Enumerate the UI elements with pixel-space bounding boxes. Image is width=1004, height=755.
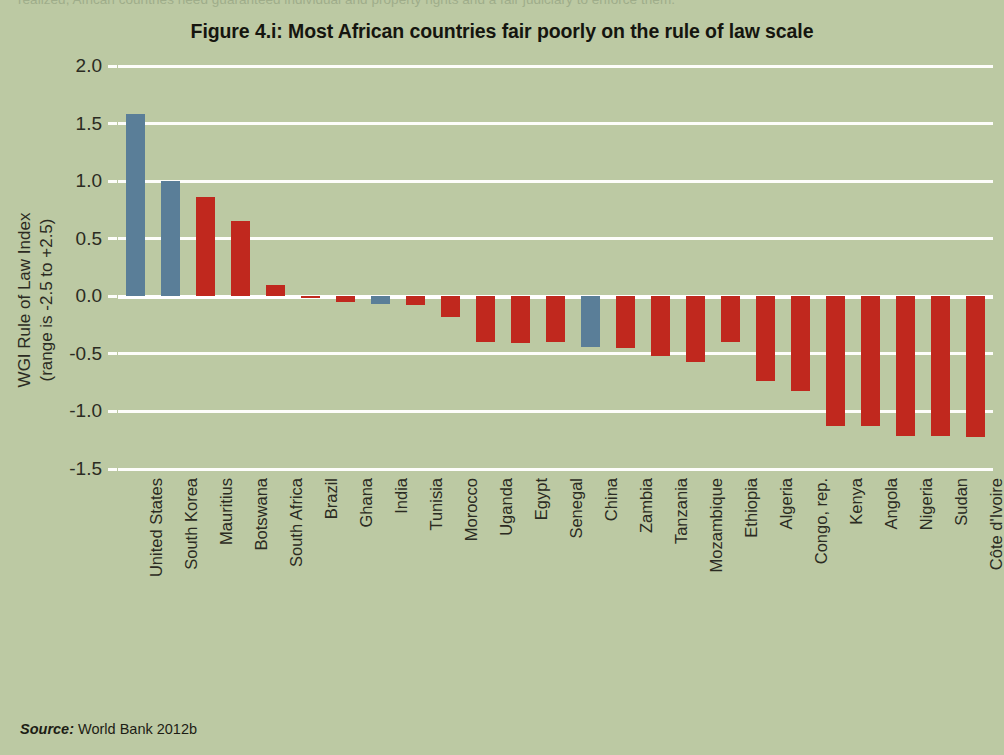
x-axis-label: Côte d'Ivoire [983, 308, 1002, 478]
x-axis-label: Brazil [318, 308, 337, 478]
y-tick-mark [108, 352, 117, 355]
y-tick-mark [108, 122, 117, 125]
x-axis-label: Sudan [948, 308, 967, 478]
x-axis-label: Botswana [248, 308, 267, 478]
bar [301, 296, 320, 298]
y-tick-label: -1.0 [69, 400, 102, 422]
x-axis-label: Senegal [563, 308, 582, 478]
source-label: Source: [20, 721, 74, 737]
y-tick-label: 2.0 [76, 55, 102, 77]
clipped-body-text: realized, African countries need guarant… [18, 0, 993, 7]
x-axis-label: Mauritius [213, 308, 232, 478]
y-tick-label: 1.5 [76, 113, 102, 135]
x-axis-label: United States [143, 308, 162, 478]
y-axis-title: WGI Rule of Law Index (range is -2.5 to … [14, 150, 58, 450]
figure-page: realized, African countries need guarant… [0, 0, 1004, 755]
y-tick-label: 1.0 [76, 170, 102, 192]
x-axis-label: Ghana [353, 308, 372, 478]
y-tick-mark [108, 410, 117, 413]
bar [231, 221, 250, 296]
x-axis-label: Morocco [458, 308, 477, 478]
y-tick-mark [108, 180, 117, 183]
bar [406, 296, 425, 305]
y-tick-label: -0.5 [69, 343, 102, 365]
y-tick-mark [108, 65, 117, 68]
bar [196, 197, 215, 296]
y-axis-title-line2: (range is -2.5 to +2.5) [37, 219, 56, 382]
bar [126, 114, 145, 296]
x-axis-label: Tanzania [668, 308, 687, 478]
y-tick-mark [108, 237, 117, 240]
bar [266, 285, 285, 297]
bar [371, 296, 390, 304]
x-axis-label: South Korea [178, 308, 197, 478]
x-axis-label: Egypt [528, 308, 547, 478]
y-tick-label: 0.0 [76, 285, 102, 307]
x-axis-label: India [388, 308, 407, 478]
source-value: World Bank 2012b [74, 721, 197, 737]
x-axis-label: Algeria [773, 308, 792, 478]
chart-title: Figure 4.i: Most African countries fair … [0, 20, 1004, 43]
bar [336, 296, 355, 302]
x-axis-label: Tunisia [423, 308, 442, 478]
y-tick-label: 0.5 [76, 228, 102, 250]
plot-area: 2.01.51.00.50.0-0.5-1.0-1.5 United State… [118, 66, 993, 469]
x-axis-label: Uganda [493, 308, 512, 478]
x-axis-label: Angola [878, 308, 897, 478]
x-axis-label: Mozambique [703, 308, 722, 478]
x-axis-label: Nigeria [913, 308, 932, 478]
y-tick-mark [108, 295, 117, 298]
x-axis-label: Ethiopia [738, 308, 757, 478]
y-tick-mark [108, 468, 117, 471]
x-axis-label: China [598, 308, 617, 478]
bar [161, 181, 180, 296]
source-note: Source: World Bank 2012b [20, 721, 197, 737]
x-axis-label: Congo, rep. [808, 308, 827, 478]
x-axis-label: Zambia [633, 308, 652, 478]
y-axis-title-line1: WGI Rule of Law Index [15, 213, 34, 388]
x-axis-label: Kenya [843, 308, 862, 478]
y-tick-label: -1.5 [69, 458, 102, 480]
x-axis-label: South Africa [283, 308, 302, 478]
